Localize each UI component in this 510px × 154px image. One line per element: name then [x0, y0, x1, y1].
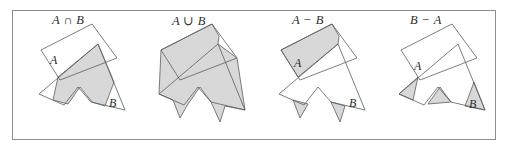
set-operations-figure: A ∩ BABA ∪ BA − BABB − AAB: [0, 0, 510, 154]
label-a: A: [413, 59, 422, 73]
diagram-difference-b-minus-a: AB: [388, 22, 498, 132]
label-b: B: [349, 96, 357, 110]
diagram-intersection: AB: [28, 22, 138, 132]
label-a: A: [293, 56, 302, 70]
label-a: A: [49, 53, 58, 67]
shaded-region-1: [53, 44, 114, 106]
diagram-union: [148, 22, 258, 132]
panel-container: A ∩ BABA ∪ BA − BABB − AAB: [0, 0, 510, 154]
label-b: B: [109, 96, 117, 110]
label-b: B: [469, 97, 477, 111]
diagram-difference-a-minus-b: AB: [268, 22, 378, 132]
set-a-outline: [401, 24, 477, 80]
